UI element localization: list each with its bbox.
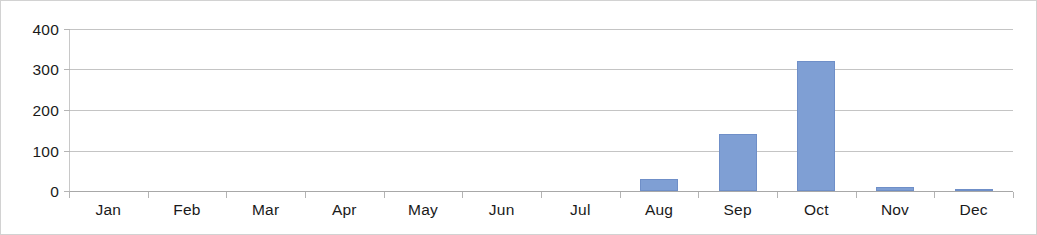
x-tick-label-feb: Feb xyxy=(148,202,227,218)
x-tick-label-aug: Aug xyxy=(620,202,699,218)
bar-nov[interactable] xyxy=(876,187,914,191)
x-tick-label-nov: Nov xyxy=(856,202,935,218)
x-tick-label-oct: Oct xyxy=(777,202,856,218)
y-tick-label-400: 400 xyxy=(1,22,59,38)
x-tick-mark xyxy=(1013,192,1014,198)
bar-oct[interactable] xyxy=(797,61,835,191)
y-tick-label-300: 300 xyxy=(1,62,59,78)
bar-aug[interactable] xyxy=(640,179,678,191)
bar-slot xyxy=(226,29,305,191)
bar-slot xyxy=(620,29,699,191)
x-tick-mark xyxy=(148,192,149,198)
x-tick-mark xyxy=(462,192,463,198)
x-tick-mark xyxy=(698,192,699,198)
y-tick-label-0: 0 xyxy=(1,184,59,200)
x-tick-label-mar: Mar xyxy=(226,202,305,218)
x-tick-label-jun: Jun xyxy=(462,202,541,218)
y-axis-tick-labels: 400 300 200 100 0 xyxy=(1,1,59,235)
x-tick-mark xyxy=(934,192,935,198)
x-tick-mark-origin xyxy=(69,192,70,198)
bar-slot xyxy=(777,29,856,191)
bar-slot xyxy=(148,29,227,191)
x-tick-mark xyxy=(856,192,857,198)
y-tick-label-100: 100 xyxy=(1,144,59,160)
y-tick-label-200: 200 xyxy=(1,103,59,119)
bar-slot xyxy=(856,29,935,191)
x-tick-label-dec: Dec xyxy=(934,202,1013,218)
x-tick-label-apr: Apr xyxy=(305,202,384,218)
bar-slot xyxy=(541,29,620,191)
bar-slot xyxy=(384,29,463,191)
x-tick-mark xyxy=(226,192,227,198)
x-tick-label-jan: Jan xyxy=(69,202,148,218)
bar-slot xyxy=(698,29,777,191)
x-tick-label-jul: Jul xyxy=(541,202,620,218)
bar-slot xyxy=(69,29,148,191)
bar-slot xyxy=(934,29,1013,191)
bar-sep[interactable] xyxy=(719,134,757,191)
x-tick-mark xyxy=(384,192,385,198)
x-tick-label-sep: Sep xyxy=(698,202,777,218)
bar-slot xyxy=(462,29,541,191)
bar-chart: 400 300 200 100 0 JanFebMarAprMayJunJulA… xyxy=(0,0,1037,235)
x-tick-label-may: May xyxy=(384,202,463,218)
bar-dec[interactable] xyxy=(955,189,993,191)
x-tick-mark xyxy=(620,192,621,198)
x-tick-mark xyxy=(777,192,778,198)
x-tick-mark xyxy=(305,192,306,198)
bar-slot xyxy=(305,29,384,191)
x-tick-mark xyxy=(541,192,542,198)
bars-layer xyxy=(69,29,1013,191)
